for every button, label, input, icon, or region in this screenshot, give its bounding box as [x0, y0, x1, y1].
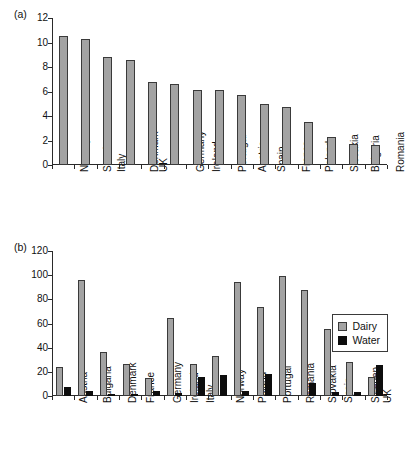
bar-group: Slovakia	[298, 251, 320, 396]
bar-group: Italy	[97, 18, 119, 165]
x-tick-mark	[253, 165, 254, 169]
y-tick-mark	[48, 299, 52, 300]
bar-dairy	[304, 122, 313, 165]
x-tick-mark	[119, 396, 120, 400]
bar-dairy	[145, 378, 152, 396]
x-tick-mark	[164, 396, 165, 400]
plot-area-b: AustriaBulgariaDenmarkFranceGermanyIrela…	[52, 251, 387, 396]
bar-group: Denmark	[119, 18, 141, 165]
y-tick-mark	[48, 116, 52, 117]
x-tick-mark	[208, 396, 209, 400]
bar-water	[198, 377, 205, 396]
bar-dairy	[327, 137, 336, 165]
bar-dairy	[279, 276, 286, 396]
bar-dairy	[371, 145, 380, 165]
bar-water	[309, 383, 316, 396]
bar-dairy	[190, 364, 197, 396]
legend-item-water: Water	[338, 333, 380, 347]
x-tick-mark	[52, 396, 53, 400]
bar-group: Austria	[52, 251, 74, 396]
bar-water	[242, 391, 249, 396]
x-tick-mark	[208, 165, 209, 169]
bar-water	[153, 391, 160, 396]
bar-water	[220, 375, 227, 396]
x-tick-mark	[387, 165, 388, 169]
x-tick-label: Romania	[396, 132, 406, 172]
x-tick-mark	[141, 396, 142, 400]
bar-dairy	[324, 329, 331, 396]
x-tick-mark	[97, 165, 98, 169]
bar-group: Norway	[52, 18, 74, 165]
chart-legend: Dairy Water	[332, 314, 388, 352]
x-tick-mark	[119, 165, 120, 169]
bar-dairy	[282, 107, 291, 165]
bar-dairy	[81, 39, 90, 165]
y-tick-mark	[48, 396, 52, 397]
bar-group: Bulgaria	[342, 18, 364, 165]
bar-water	[332, 392, 339, 396]
water-swatch-icon	[338, 336, 347, 345]
bar-group: Romania	[365, 18, 387, 165]
x-tick-mark	[186, 165, 187, 169]
bar-group: UK	[141, 18, 163, 165]
bar-group: Portugal	[208, 18, 230, 165]
y-tick-mark	[48, 348, 52, 349]
bar-dairy	[148, 82, 157, 165]
y-tick-mark	[48, 141, 52, 142]
bar-dairy	[56, 367, 63, 396]
y-tick-mark	[48, 92, 52, 93]
bar-dairy	[100, 352, 107, 396]
bar-group: Ireland	[164, 251, 186, 396]
bar-dairy	[237, 95, 246, 165]
y-tick-mark	[48, 43, 52, 44]
bar-group: Denmark	[97, 251, 119, 396]
bar-group: Romania	[275, 251, 297, 396]
bar-group: Slovakia	[320, 18, 342, 165]
x-tick-mark	[298, 396, 299, 400]
bar-dairy	[123, 364, 130, 396]
x-tick-mark	[365, 165, 366, 169]
bar-dairy	[368, 377, 375, 396]
x-tick-mark	[342, 396, 343, 400]
x-tick-mark	[74, 165, 75, 169]
bar-group: France	[119, 251, 141, 396]
panel-b-tag: (b)	[14, 241, 27, 253]
bar-group: Portugal	[253, 251, 275, 396]
bar-dairy	[193, 90, 202, 165]
y-tick-mark	[48, 67, 52, 68]
x-tick-mark	[141, 165, 142, 169]
x-tick-mark	[275, 165, 276, 169]
y-tick-mark	[48, 275, 52, 276]
bar-group: Sweden	[74, 18, 96, 165]
panel-b: (b) AustriaBulgariaDenmarkFranceGermanyI…	[0, 235, 400, 470]
bar-group: Austria	[231, 18, 253, 165]
bar-group: Norway	[208, 251, 230, 396]
x-tick-mark	[97, 396, 98, 400]
bar-dairy	[103, 57, 112, 165]
panel-a-tag: (a)	[14, 8, 27, 20]
legend-label-dairy: Dairy	[352, 321, 377, 332]
bar-dairy	[212, 356, 219, 396]
legend-item-dairy: Dairy	[338, 319, 380, 333]
x-tick-mark	[365, 396, 366, 400]
bar-group: Bulgaria	[74, 251, 96, 396]
x-tick-mark	[74, 396, 75, 400]
plot-area-a: NorwaySwedenItalyDenmarkUKGermanyIreland…	[52, 18, 387, 165]
bar-group: Poland	[298, 18, 320, 165]
y-tick-mark	[48, 18, 52, 19]
x-tick-mark	[52, 165, 53, 169]
dairy-swatch-icon	[338, 322, 347, 331]
bar-group: Germany	[141, 251, 163, 396]
bar-dairy	[234, 282, 241, 396]
bar-dairy	[170, 84, 179, 165]
legend-label-water: Water	[352, 335, 380, 346]
y-tick-mark	[48, 324, 52, 325]
panel-a: (a) NorwaySwedenItalyDenmarkUKGermanyIre…	[0, 0, 400, 235]
x-tick-mark	[342, 165, 343, 169]
bar-water	[108, 394, 115, 396]
bar-dairy	[349, 144, 358, 165]
bar-group: Germany	[164, 18, 186, 165]
bar-water	[86, 391, 93, 396]
bars-group-a: NorwaySwedenItalyDenmarkUKGermanyIreland…	[52, 18, 387, 165]
